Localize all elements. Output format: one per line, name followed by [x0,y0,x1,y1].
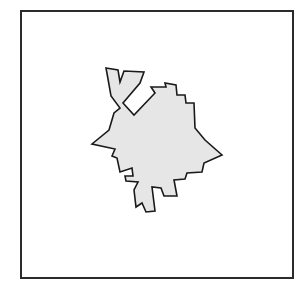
figure-canvas [0,0,307,300]
figure-root [0,0,307,300]
